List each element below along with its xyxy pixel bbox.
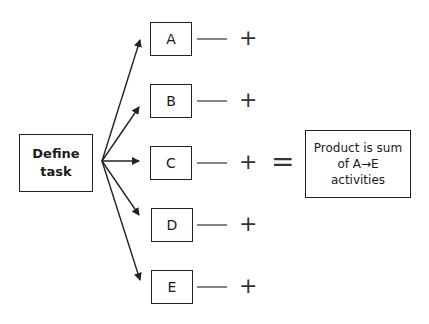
result-line2: of A→E: [314, 156, 402, 172]
plus-sign-a: +: [239, 27, 257, 49]
result-box: Product is sum of A→E activities: [305, 130, 411, 198]
activity-label: D: [167, 217, 178, 233]
equals-sign: =: [271, 151, 294, 173]
result-line3: activities: [314, 172, 402, 188]
arrow-to-e: [102, 161, 140, 280]
activity-box-a: A: [150, 22, 192, 56]
arrow-to-b: [102, 107, 139, 161]
activity-label: B: [166, 93, 176, 109]
activity-box-e: E: [151, 270, 193, 304]
activity-box-c: C: [150, 146, 192, 180]
activity-box-b: B: [150, 84, 192, 118]
result-line1: Product is sum: [314, 140, 402, 156]
plus-sign-c: +: [239, 151, 257, 173]
arrow-to-d: [102, 161, 139, 215]
plus-sign-b: +: [239, 89, 257, 111]
activity-label: E: [168, 279, 177, 295]
define-task-label-line1: Define: [32, 145, 79, 163]
activity-box-d: D: [151, 208, 193, 242]
define-task-box: Define task: [19, 134, 93, 192]
plus-sign-e: +: [239, 275, 257, 297]
plus-sign-d: +: [239, 213, 257, 235]
activity-label: A: [166, 31, 176, 47]
arrow-to-a: [102, 40, 140, 161]
define-task-label-line2: task: [32, 163, 79, 181]
activity-label: C: [166, 155, 176, 171]
